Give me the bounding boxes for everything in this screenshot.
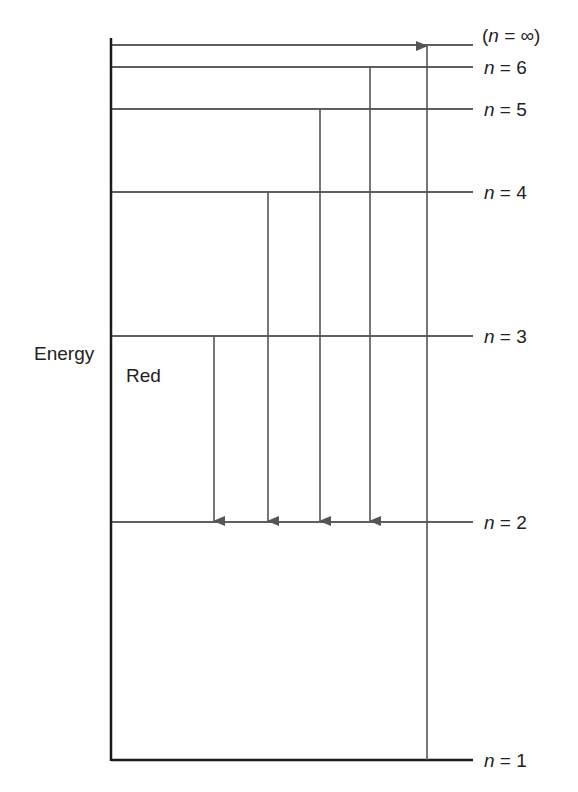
level-label-n3: n = 3 (484, 326, 527, 347)
level-label-ninf: (n = ∞) (482, 25, 540, 46)
energy-level-diagram: (n = ∞)n = 6n = 5n = 4n = 3n = 2n = 1 En… (0, 0, 578, 792)
level-label-n5: n = 5 (484, 99, 527, 120)
level-label-n6: n = 6 (484, 57, 527, 78)
level-label-n4: n = 4 (484, 182, 527, 203)
red-series-label: Red (126, 365, 161, 386)
level-label-n2: n = 2 (484, 512, 527, 533)
energy-axis-label: Energy (34, 343, 95, 364)
level-label-n1: n = 1 (484, 750, 527, 771)
level-lines (111, 45, 473, 522)
transition-arrows (214, 46, 427, 760)
level-labels: (n = ∞)n = 6n = 5n = 4n = 3n = 2n = 1 (482, 25, 540, 771)
